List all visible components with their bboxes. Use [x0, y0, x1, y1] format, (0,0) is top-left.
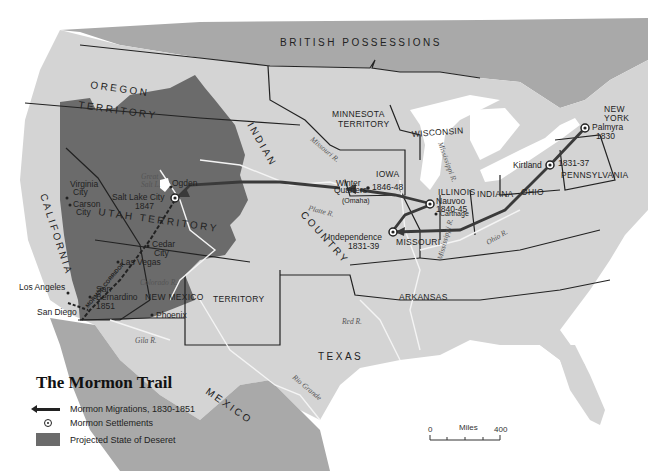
scale-ruler [429, 435, 501, 441]
label-ogden: Ogden [172, 178, 198, 188]
label-independence-year: 1831-39 [348, 241, 379, 251]
label-gila-river: Gila R. [135, 336, 157, 345]
label-winter-quarters-2: Quarters [334, 185, 367, 195]
legend-item-deseret: Projected State of Deseret [34, 433, 176, 446]
label-arkansas: ARKANSAS [399, 292, 448, 302]
label-ohio: OHIO [521, 187, 544, 197]
label-missouri: MISSOURI [396, 237, 440, 247]
legend-label: Mormon Settlements [70, 418, 153, 428]
label-colorado-river: Colorado R. [140, 278, 177, 287]
settlement-dot-icon [34, 419, 62, 427]
label-indiana: INDIANA [477, 189, 514, 199]
scale-end: 400 [494, 425, 507, 434]
label-new-mexico: NEW MEXICO [145, 292, 204, 302]
label-texas: TEXAS [318, 351, 363, 362]
label-san-bernardino-year: 1851 [96, 301, 115, 311]
legend-item-settlements: Mormon Settlements [34, 418, 153, 428]
label-pennsylvania: PENNSYLVANIA [561, 170, 629, 180]
label-carthage: Carthage [440, 210, 469, 218]
label-red-river: Red R. [341, 317, 362, 326]
gray-fill-swatch-icon [34, 433, 62, 446]
label-great-salt-lake-2: Salt L. [141, 180, 161, 189]
legend-label: Mormon Migrations, 1830-1851 [70, 404, 195, 414]
label-palmyra-year: 1830 [596, 131, 615, 141]
label-san-diego: San Diego [37, 307, 77, 317]
label-los-angeles: Los Angeles [19, 282, 65, 292]
scale-unit: Miles [459, 423, 478, 432]
legend-label: Projected State of Deseret [70, 435, 176, 445]
label-minnesota-territory: TERRITORY [338, 119, 390, 129]
label-kirtland-year: 1831-37 [558, 158, 589, 168]
label-british-possessions: BRITISH POSSESSIONS [280, 37, 442, 48]
arrow-icon [34, 408, 62, 411]
label-phoenix: Phoenix [156, 310, 187, 320]
mormon-trail-map: BRITISH POSSESSIONS OREGON TERRITORY CAL… [0, 0, 648, 471]
label-omaha: (Omaha) [342, 197, 370, 205]
label-kirtland: Kirtland [513, 160, 542, 170]
label-iowa: IOWA [376, 169, 400, 179]
label-carson-city-2: City [76, 207, 91, 217]
label-new-mexico-territory: TERRITORY [213, 294, 265, 304]
label-virginia-city-2: City [73, 187, 88, 197]
label-salt-lake-city-year: 1847 [135, 201, 154, 211]
label-minnesota: MINNESOTA [332, 109, 385, 119]
label-las-vegas: Las Vegas [121, 257, 161, 267]
map-title: The Mormon Trail [36, 373, 172, 393]
legend-item-migrations: Mormon Migrations, 1830-1851 [34, 404, 195, 414]
label-winter-quarters-year: 1846-48 [372, 182, 403, 192]
scale-start: 0 [428, 425, 432, 434]
